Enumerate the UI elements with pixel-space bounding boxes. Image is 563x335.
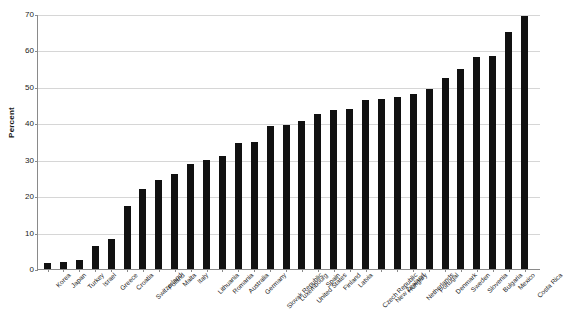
bar bbox=[378, 99, 385, 269]
bar bbox=[362, 100, 369, 269]
bar bbox=[283, 125, 290, 269]
x-tick-label: Italy bbox=[196, 272, 209, 285]
bar bbox=[394, 97, 401, 269]
bar bbox=[426, 89, 433, 269]
bar bbox=[330, 110, 337, 269]
y-tick-mark bbox=[35, 270, 38, 271]
bar bbox=[505, 32, 512, 269]
bar bbox=[489, 56, 496, 269]
bar bbox=[108, 239, 115, 269]
bar bbox=[139, 189, 146, 269]
x-tick-label: Costa Rica bbox=[536, 272, 563, 299]
y-tick-label: 40 bbox=[25, 120, 34, 128]
bar bbox=[203, 160, 210, 269]
y-axis-title: Percent bbox=[7, 93, 16, 153]
bar bbox=[60, 262, 67, 269]
bar bbox=[457, 69, 464, 269]
bar bbox=[155, 180, 162, 269]
bars-group bbox=[38, 15, 540, 269]
bar bbox=[442, 78, 449, 269]
bar bbox=[521, 16, 528, 269]
y-tick-label: 10 bbox=[25, 230, 34, 238]
bar bbox=[187, 164, 194, 269]
bar bbox=[124, 206, 131, 269]
y-tick-label: 20 bbox=[25, 193, 34, 201]
x-tick-label: Korea bbox=[55, 272, 72, 289]
bar bbox=[251, 142, 258, 270]
bar bbox=[267, 126, 274, 269]
plot-area: 010203040506070 bbox=[37, 15, 540, 270]
bar bbox=[314, 114, 321, 269]
bar bbox=[410, 94, 417, 269]
bar bbox=[473, 57, 480, 269]
y-tick-label: 70 bbox=[25, 11, 34, 19]
x-tick-label: Japan bbox=[71, 272, 88, 289]
y-tick-label: 60 bbox=[25, 47, 34, 55]
x-axis-labels: KoreaJapanTurkeyIsraelGreeceCroatiaSwitz… bbox=[37, 272, 540, 335]
y-tick-label: 30 bbox=[25, 157, 34, 165]
bar bbox=[235, 143, 242, 269]
bar bbox=[76, 260, 83, 269]
y-tick-label: 0 bbox=[30, 266, 34, 274]
bar bbox=[346, 109, 353, 269]
bar bbox=[171, 174, 178, 269]
bar bbox=[92, 246, 99, 269]
bar bbox=[219, 156, 226, 269]
y-tick-label: 50 bbox=[25, 84, 34, 92]
bar bbox=[298, 121, 305, 269]
